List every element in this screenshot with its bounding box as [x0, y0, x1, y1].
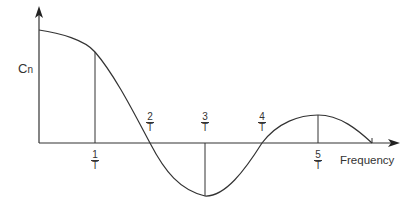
tick-num: 2 [147, 111, 153, 122]
y-axis-label-main: C [18, 61, 27, 76]
tick-num: 5 [315, 149, 321, 160]
tick-label-3: 3T [199, 112, 211, 133]
tick-label-5: 5T [312, 150, 324, 171]
y-axis-label-sub: n [27, 64, 33, 75]
tick-label-1: 1T [89, 150, 101, 171]
tick-den: T [315, 160, 321, 171]
tick-den: T [147, 122, 153, 133]
tick-num: 4 [259, 111, 265, 122]
y-axis-label: Cn [18, 62, 33, 75]
chart-canvas [0, 0, 415, 206]
x-axis-label: Frequency [340, 155, 394, 167]
tick-label-4: 4T [256, 112, 268, 133]
tick-num: 3 [202, 111, 208, 122]
tick-den: T [202, 122, 208, 133]
tick-num: 1 [92, 149, 98, 160]
tick-label-2: 2T [144, 112, 156, 133]
tick-den: T [259, 122, 265, 133]
tick-den: T [92, 160, 98, 171]
